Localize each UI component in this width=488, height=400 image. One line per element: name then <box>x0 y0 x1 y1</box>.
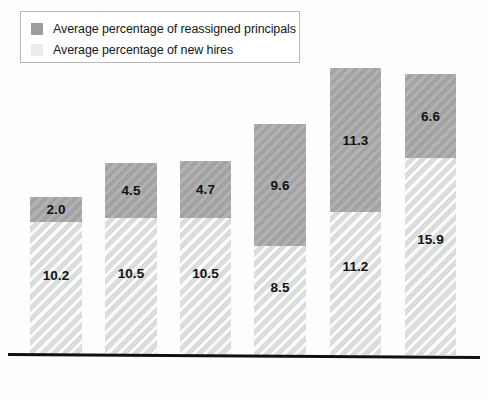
bar-value-label: 6.6 <box>421 109 440 124</box>
bar-segment-new-hires: 11.2 <box>330 212 381 355</box>
bar-segment-reassigned: 6.6 <box>405 74 456 158</box>
bar-segment-new-hires: 10.2 <box>30 222 82 355</box>
bar-segment-reassigned: 9.6 <box>254 124 306 246</box>
bar-value-label: 10.5 <box>118 266 145 281</box>
bar-segment-reassigned: 2.0 <box>30 197 82 222</box>
bar-segment-new-hires: 10.5 <box>180 218 231 355</box>
bar-segment-reassigned: 11.3 <box>330 68 381 212</box>
bar-value-label: 10.5 <box>192 266 219 281</box>
plot-area: 2.0 10.2 4.5 10.5 4.7 10.5 9.6 <box>0 0 488 400</box>
bar-group-1: 2.0 10.2 <box>30 197 82 355</box>
bar-value-label: 10.2 <box>43 268 70 283</box>
bar-value-label: 4.7 <box>196 182 215 197</box>
bar-value-label: 9.6 <box>270 178 289 193</box>
bar-segment-reassigned: 4.5 <box>105 163 157 218</box>
bar-group-5: 11.3 11.2 <box>330 68 381 355</box>
bar-segment-new-hires: 15.9 <box>405 158 456 355</box>
bar-segment-new-hires: 10.5 <box>105 218 157 355</box>
bar-value-label: 2.0 <box>46 202 65 217</box>
bar-value-label: 8.5 <box>270 280 289 295</box>
bar-group-6: 6.6 15.9 <box>405 74 456 355</box>
bar-value-label: 4.5 <box>121 183 140 198</box>
bar-group-3: 4.7 10.5 <box>180 161 231 355</box>
bar-group-2: 4.5 10.5 <box>105 163 157 355</box>
stacked-bar-chart: Average percentage of reassigned princip… <box>0 0 488 400</box>
bar-value-label: 15.9 <box>417 232 444 247</box>
bar-segment-reassigned: 4.7 <box>180 161 231 218</box>
bar-value-label: 11.3 <box>343 133 369 148</box>
bar-value-label: 11.2 <box>343 259 369 274</box>
bar-group-4: 9.6 8.5 <box>254 124 306 355</box>
bar-segment-new-hires: 8.5 <box>254 246 306 355</box>
